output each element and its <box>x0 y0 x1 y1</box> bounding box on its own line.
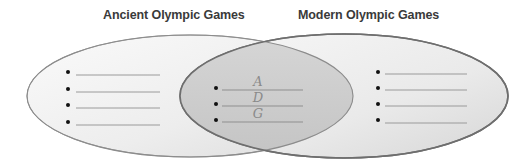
title-modern: Modern Olympic Games <box>298 8 439 22</box>
title-ancient: Ancient Olympic Games <box>103 8 245 22</box>
intersection-item-2: D <box>248 90 268 105</box>
intersection-item-1: A <box>248 74 268 89</box>
intersection-item-3: G <box>248 106 268 121</box>
venn-diagram: Ancient Olympic Games Modern Olympic Gam… <box>0 0 532 167</box>
